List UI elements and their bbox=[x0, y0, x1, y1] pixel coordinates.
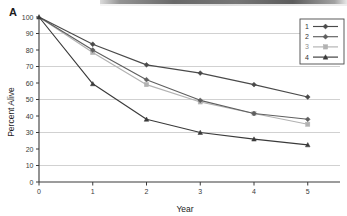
data-point bbox=[90, 42, 95, 47]
y-tick-label: 20 bbox=[26, 146, 34, 153]
legend-label-3[interactable]: 3 bbox=[305, 43, 309, 50]
x-tick-label: 2 bbox=[145, 188, 149, 195]
data-point bbox=[144, 77, 149, 82]
data-point bbox=[306, 122, 310, 126]
chart-svg: 0102030405060708090100 012345 1234 Perce… bbox=[0, 0, 347, 216]
survival-curve-chart: 0102030405060708090100 012345 1234 Perce… bbox=[0, 0, 347, 216]
x-axis-ticks: 012345 bbox=[37, 182, 310, 195]
legend-label-4[interactable]: 4 bbox=[305, 54, 309, 61]
y-tick-label: 30 bbox=[26, 129, 34, 136]
legend-label-1[interactable]: 1 bbox=[305, 23, 309, 30]
data-point bbox=[198, 71, 203, 76]
series-line bbox=[39, 17, 308, 124]
x-axis-title: Year bbox=[176, 204, 193, 214]
y-tick-label: 0 bbox=[30, 179, 34, 186]
x-tick-label: 1 bbox=[91, 188, 95, 195]
y-tick-label: 80 bbox=[26, 47, 34, 54]
x-tick-label: 3 bbox=[198, 188, 202, 195]
y-tick-label: 50 bbox=[26, 96, 34, 103]
data-point bbox=[305, 95, 310, 100]
y-tick-label: 100 bbox=[22, 14, 34, 21]
data-point bbox=[305, 117, 310, 122]
series-line bbox=[39, 17, 308, 145]
x-tick-label: 0 bbox=[37, 188, 41, 195]
series-1 bbox=[39, 17, 310, 99]
y-axis-ticks: 0102030405060708090100 bbox=[22, 14, 39, 186]
legend-label-2[interactable]: 2 bbox=[305, 33, 309, 40]
legend-marker-3 bbox=[323, 45, 327, 49]
data-point bbox=[252, 82, 257, 87]
series-line bbox=[39, 17, 308, 119]
y-tick-label: 40 bbox=[26, 113, 34, 120]
y-tick-label: 70 bbox=[26, 63, 34, 70]
data-series bbox=[37, 15, 311, 147]
series-4 bbox=[39, 17, 310, 147]
gridlines bbox=[39, 34, 340, 166]
y-axis-title: Percent Alive bbox=[6, 87, 16, 137]
data-point bbox=[144, 83, 148, 87]
y-tick-label: 90 bbox=[26, 30, 34, 37]
series-line bbox=[39, 17, 308, 97]
y-tick-label: 60 bbox=[26, 80, 34, 87]
x-tick-label: 5 bbox=[306, 188, 310, 195]
x-tick-label: 4 bbox=[252, 188, 256, 195]
y-tick-label: 10 bbox=[26, 162, 34, 169]
chart-legend[interactable]: 1234 bbox=[300, 19, 344, 64]
